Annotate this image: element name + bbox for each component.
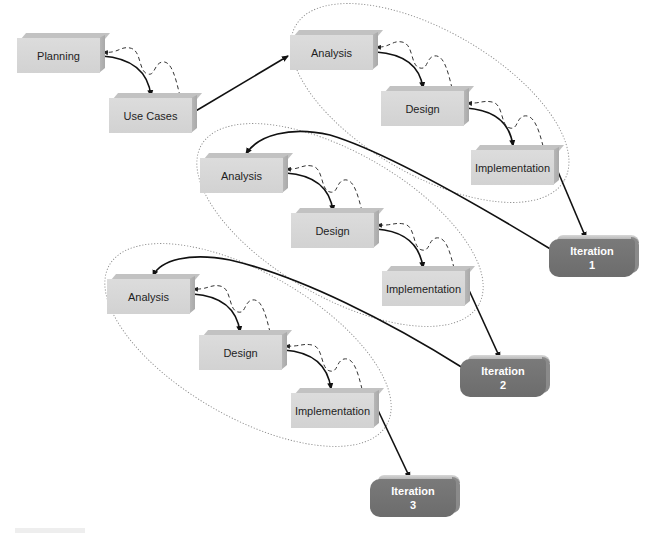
arrow-planning-to-usecases (102, 56, 151, 96)
feedback-design3-to-analysis3 (193, 286, 270, 332)
implementation-label: Implementation (382, 271, 465, 306)
implementation-label: Implementation (471, 150, 554, 185)
design-label: Design (291, 213, 374, 248)
milestone-body: Iteration 1 (549, 239, 635, 277)
use-cases-box: Use Cases (109, 93, 197, 133)
iteration-2-label: Iteration (481, 364, 524, 378)
arrow-analysis1-to-design1 (376, 52, 423, 88)
design-label: Design (381, 91, 464, 126)
arrow-usecases-to-analysis-1 (194, 56, 288, 112)
arrow-design1-to-implementation1 (466, 108, 513, 146)
arrow-implementation3-to-iteration3 (376, 406, 410, 478)
use-cases-label: Use Cases (109, 98, 192, 133)
analysis-box-iteration-1: Analysis (290, 30, 378, 70)
iteration-3-label: Iteration (391, 484, 434, 498)
implementation-label: Implementation (291, 393, 374, 428)
iterative-process-diagram: Planning Use Cases Analysis Design Imple… (0, 0, 654, 536)
arrow-implementation1-to-iteration1 (556, 167, 586, 238)
implementation-box-iteration-3: Implementation (291, 388, 379, 428)
implementation-box-iteration-1: Implementation (471, 145, 559, 185)
iteration-3-number: 3 (410, 498, 416, 512)
planning-box: Planning (17, 33, 105, 73)
iteration-2-milestone: Iteration 2 (460, 355, 550, 397)
design-box-iteration-3: Design (199, 330, 287, 370)
iteration-1-milestone: Iteration 1 (549, 235, 639, 277)
milestone-body: Iteration 3 (370, 479, 456, 517)
analysis-box-iteration-2: Analysis (200, 153, 288, 193)
iteration-3-milestone: Iteration 3 (370, 475, 460, 517)
design-box-iteration-1: Design (381, 86, 469, 126)
feedback-impl1-to-design1 (467, 101, 543, 146)
analysis-label: Analysis (107, 279, 190, 314)
arrow-analysis3-to-design3 (193, 294, 240, 332)
arrow-design2-to-implementation2 (376, 229, 423, 268)
arrow-implementation2-to-iteration2 (468, 288, 500, 358)
arrow-design3-to-implementation3 (284, 350, 331, 389)
design-box-iteration-2: Design (291, 208, 379, 248)
design-label: Design (199, 335, 282, 370)
analysis-label: Analysis (290, 35, 373, 70)
planning-label: Planning (17, 38, 100, 73)
analysis-label: Analysis (200, 158, 283, 193)
iteration-2-number: 2 (500, 378, 506, 392)
cropped-caption-remnant (15, 528, 85, 533)
iteration-1-label: Iteration (570, 244, 613, 258)
iteration-1-number: 1 (589, 258, 595, 272)
implementation-box-iteration-2: Implementation (382, 266, 470, 306)
feedback-design1-to-analysis1 (376, 42, 452, 88)
milestone-body: Iteration 2 (460, 359, 546, 397)
arrow-analysis2-to-design2 (286, 173, 333, 211)
analysis-box-iteration-3: Analysis (107, 274, 195, 314)
